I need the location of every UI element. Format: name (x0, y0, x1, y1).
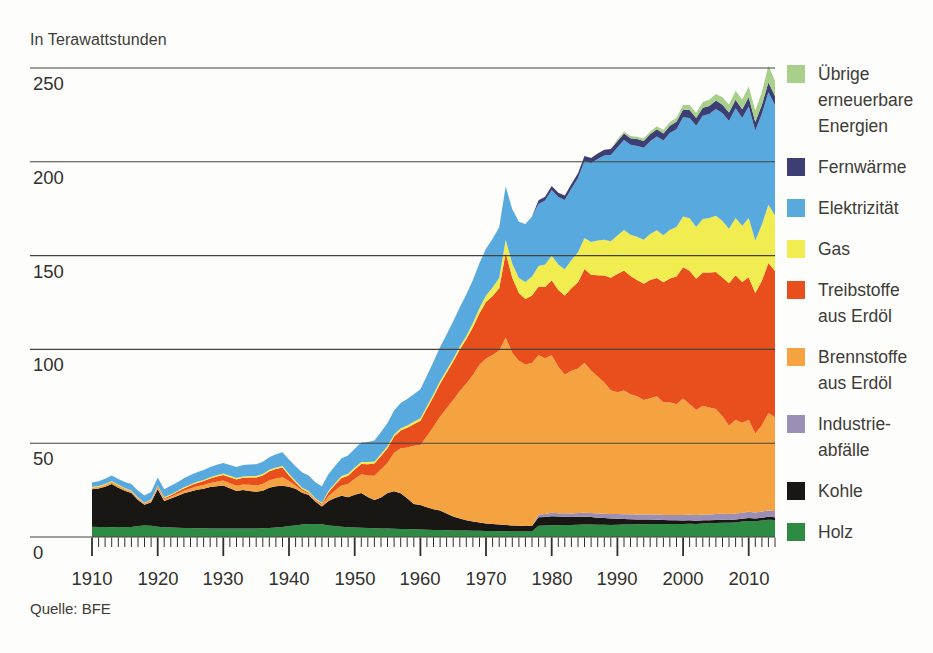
legend-label: Fernwärme (818, 154, 907, 180)
legend-swatch (787, 348, 805, 366)
legend-item-brennstoffe: Brennstoffe aus Erdöl (787, 344, 933, 396)
x-tick-label-1930: 1930 (202, 568, 243, 590)
x-axis-ticks (92, 538, 775, 557)
legend-swatch (787, 281, 805, 299)
x-tick-label-1980: 1980 (531, 568, 572, 590)
legend-swatch (787, 415, 805, 433)
legend-label: Industrie- abfälle (818, 411, 891, 463)
x-tick-label-1950: 1950 (334, 568, 375, 590)
legend-item-elektrizitaet: Elektrizität (787, 195, 933, 221)
x-tick-label-1990: 1990 (596, 568, 637, 590)
area-series-group (92, 66, 775, 537)
legend-swatch (787, 240, 805, 258)
legend-label: Elektrizität (818, 195, 899, 221)
legend-item-fernwaerme: Fernwärme (787, 154, 933, 180)
y-tick-label-0: 0 (33, 542, 43, 564)
legend-item-gas: Gas (787, 236, 933, 262)
legend-label: Gas (818, 236, 850, 262)
y-tick-label-150: 150 (33, 261, 64, 283)
legend-swatch (787, 158, 805, 176)
legend-swatch (787, 523, 805, 541)
x-tick-label-2010: 2010 (728, 568, 769, 590)
legend-item-uebrige_erneuerbare: Übrige erneuerbare Energien (787, 61, 933, 139)
y-tick-label-50: 50 (33, 448, 54, 470)
x-tick-label-1970: 1970 (465, 568, 506, 590)
legend-item-industrieabfaelle: Industrie- abfälle (787, 411, 933, 463)
legend-label: Übrige erneuerbare Energien (818, 61, 913, 139)
legend-label: Kohle (818, 478, 863, 504)
y-tick-label-200: 200 (33, 167, 64, 189)
legend-item-treibstoffe: Treibstoffe aus Erdöl (787, 277, 933, 329)
legend: Übrige erneuerbare Energien Fernwärme El… (787, 61, 933, 545)
x-tick-label-1960: 1960 (399, 568, 440, 590)
x-tick-label-1920: 1920 (137, 568, 178, 590)
legend-item-kohle: Kohle (787, 478, 933, 504)
legend-swatch (787, 65, 805, 83)
y-tick-label-250: 250 (33, 73, 64, 95)
x-tick-label-1910: 1910 (71, 568, 112, 590)
legend-label: Treibstoffe aus Erdöl (818, 277, 900, 329)
source-label: Quelle: BFE (30, 600, 111, 617)
x-tick-label-1940: 1940 (268, 568, 309, 590)
y-tick-label-100: 100 (33, 354, 64, 376)
legend-swatch (787, 199, 805, 217)
legend-label: Brennstoffe aus Erdöl (818, 344, 907, 396)
legend-label: Holz (818, 519, 853, 545)
legend-item-holz: Holz (787, 519, 933, 545)
legend-swatch (787, 482, 805, 500)
x-tick-label-2000: 2000 (662, 568, 703, 590)
chart-page: In Terawattstunden 050100150200250 19101… (0, 0, 933, 653)
